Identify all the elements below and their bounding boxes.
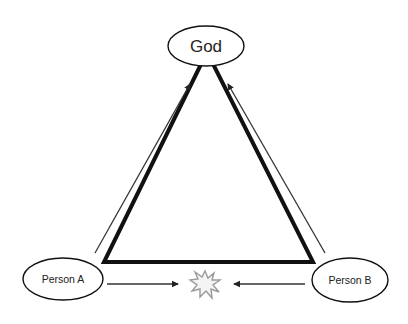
node-person-b: Person B: [312, 258, 388, 302]
node-person-b-label: Person B: [328, 274, 371, 286]
relationship-triangle-diagram: God Person A Person B: [0, 0, 408, 324]
node-person-a: Person A: [23, 258, 103, 300]
arrow-person-b-to-god: [228, 84, 325, 253]
node-person-a-label: Person A: [42, 273, 85, 285]
conflict-burst-icon: [190, 271, 220, 298]
node-god: God: [168, 26, 244, 66]
node-god-label: God: [190, 37, 222, 56]
arrow-person-a-to-god: [95, 84, 190, 253]
triangle: [104, 52, 313, 262]
